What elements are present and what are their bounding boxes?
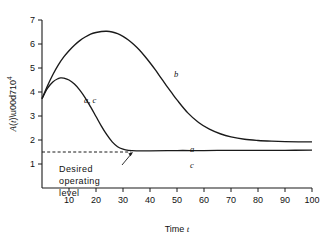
curve-label-b: b — [174, 69, 178, 79]
y-tick-label: 6 — [30, 39, 35, 49]
y-tick-label: 1 — [30, 159, 35, 169]
curve-label-c-flat: c — [190, 160, 194, 170]
x-tick-label: 70 — [226, 195, 236, 205]
x-tick-label: 90 — [280, 195, 290, 205]
curve-label-a-flat: a — [190, 144, 194, 154]
chart-svg: 1234567 102030405060708090100 a, c b a c… — [0, 0, 329, 244]
chart-figure: 1234567 102030405060708090100 a, c b a c… — [0, 0, 329, 244]
y-tick-label: 2 — [30, 135, 35, 145]
chart-background — [0, 0, 329, 244]
x-tick-label: 30 — [118, 195, 128, 205]
x-tick-label: 80 — [253, 195, 263, 205]
y-tick-label: 5 — [30, 63, 35, 73]
x-tick-label: 100 — [304, 195, 319, 205]
y-tick-label: 7 — [30, 15, 35, 25]
y-tick-label: 3 — [30, 111, 35, 121]
annot-line-1: Desired — [59, 164, 93, 174]
curve-label-ac: a, c — [84, 95, 97, 105]
x-tick-label: 40 — [145, 195, 155, 205]
annot-line-2: operating — [59, 176, 100, 186]
x-tick-label: 50 — [172, 195, 182, 205]
y-axis-title: A(t)\u00d7104 — [6, 76, 18, 133]
y-tick-label: 4 — [30, 87, 35, 97]
annot-line-3: level — [59, 188, 80, 198]
x-tick-label: 60 — [199, 195, 209, 205]
x-tick-label: 20 — [91, 195, 101, 205]
x-axis-title: Time t — [165, 224, 190, 234]
